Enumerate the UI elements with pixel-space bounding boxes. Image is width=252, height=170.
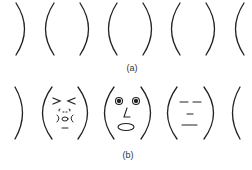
panel-b-faces [15,87,240,139]
panel-a-arcs [16,3,244,55]
face-outline-right [141,87,151,139]
pupil-right [135,100,138,103]
neutral-face [168,87,214,139]
eye-left-icon [53,98,60,104]
nose [124,108,130,117]
cheek-left [57,115,59,122]
face-outline-left [105,87,115,139]
face-outline-left [43,87,53,139]
arc-right [143,3,152,55]
arc-left [172,3,181,55]
face-outline-right [204,87,214,139]
brow-marks [59,109,71,112]
arc-right [80,3,89,55]
arc-left [109,3,118,55]
mouth-open [118,124,134,131]
panel-b-label: (b) [123,150,134,160]
face-outline-right [78,87,88,139]
arc-left [233,87,241,139]
face-outline-left [168,87,178,139]
arc-right [16,3,25,55]
figure-canvas [0,0,252,170]
squinting-face [43,87,88,139]
cheek-right [71,115,73,122]
surprised-face [105,87,151,139]
arc-right [206,3,215,55]
arc-left [46,3,55,55]
panel-a-label: (a) [127,63,138,73]
mouth [62,117,68,121]
pupil-left [118,100,121,103]
eye-right-icon [68,98,75,104]
arc-right [15,87,23,139]
arc-left [236,3,245,55]
